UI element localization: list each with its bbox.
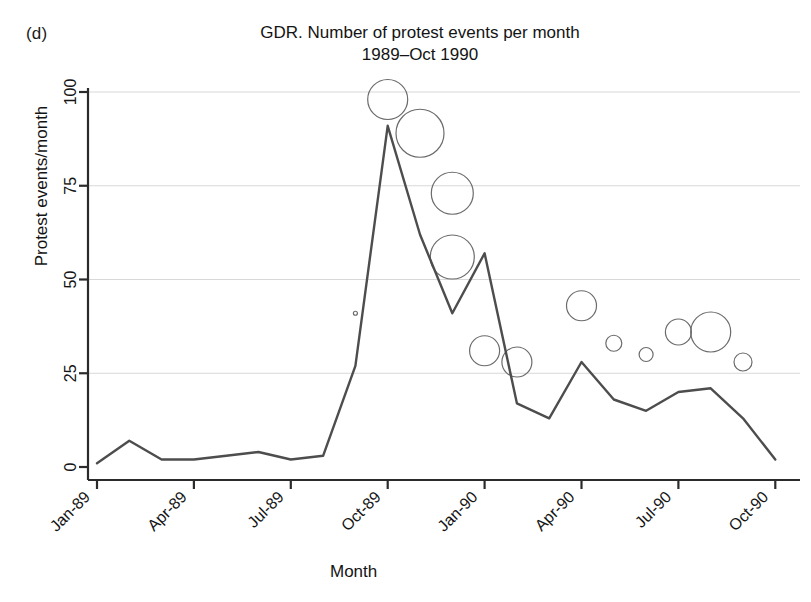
x-axis-tick-label: Jul-89 <box>244 488 287 531</box>
y-axis-tick-label: 75 <box>62 177 79 195</box>
bubble-marker <box>734 353 752 371</box>
x-axis-tick-label: Oct-89 <box>338 488 384 534</box>
y-axis-tick-label: 50 <box>62 271 79 289</box>
x-axis-tick-label: Apr-89 <box>144 488 190 534</box>
bubble-marker <box>353 311 357 315</box>
bubble-overlay <box>353 80 752 378</box>
bubble-marker <box>691 312 731 352</box>
chart-figure: (d) GDR. Number of protest events per mo… <box>0 0 811 602</box>
x-axis-tick-label: Oct-90 <box>725 488 771 534</box>
data-line <box>97 126 775 464</box>
x-axis-tick-label: Jan-89 <box>47 488 94 535</box>
y-axis-tick-label: 100 <box>62 79 79 106</box>
bubble-marker <box>431 172 473 214</box>
y-axis: 0255075100 <box>62 79 89 480</box>
x-axis-tick-label: Jan-90 <box>434 488 481 535</box>
bubble-marker <box>430 235 474 279</box>
bubble-marker <box>665 319 691 345</box>
y-axis-tick-label: 0 <box>62 462 79 471</box>
bubble-marker <box>639 348 653 362</box>
x-axis-tick-label: Jul-90 <box>632 488 675 531</box>
plot-area: 0255075100 Jan-89Apr-89Jul-89Oct-89Jan-9… <box>0 0 811 602</box>
bubble-marker <box>396 109 444 157</box>
x-axis: Jan-89Apr-89Jul-89Oct-89Jan-90Apr-90Jul-… <box>47 480 800 535</box>
bubble-marker <box>606 335 622 351</box>
bubble-marker <box>470 336 500 366</box>
x-axis-tick-label: Apr-90 <box>532 488 578 534</box>
bubble-marker <box>567 291 597 321</box>
y-axis-tick-label: 25 <box>62 364 79 382</box>
bubble-marker <box>368 80 408 120</box>
series-line-protest-events <box>97 126 775 464</box>
